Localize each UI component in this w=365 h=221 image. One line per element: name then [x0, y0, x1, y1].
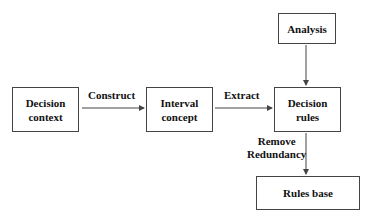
node-label: Decision context [26, 96, 66, 124]
edge-label-line: Remove [247, 135, 306, 148]
node-interval-concept: Interval concept [146, 87, 213, 132]
node-decision-rules: Decision rules [274, 87, 341, 132]
node-label: Rules base [283, 186, 333, 200]
node-analysis: Analysis [278, 13, 336, 44]
node-label: Interval concept [161, 96, 199, 124]
edge-label-line: Redundancy [247, 148, 306, 161]
node-label: Decision rules [288, 96, 328, 124]
edge-label-remove-redundancy: Remove Redundancy [247, 135, 306, 161]
node-label: Analysis [287, 22, 327, 36]
node-decision-context: Decision context [12, 87, 79, 132]
node-rules-base: Rules base [256, 176, 360, 210]
edge-label-extract: Extract [224, 89, 259, 102]
edge-label-construct: Construct [88, 89, 135, 102]
